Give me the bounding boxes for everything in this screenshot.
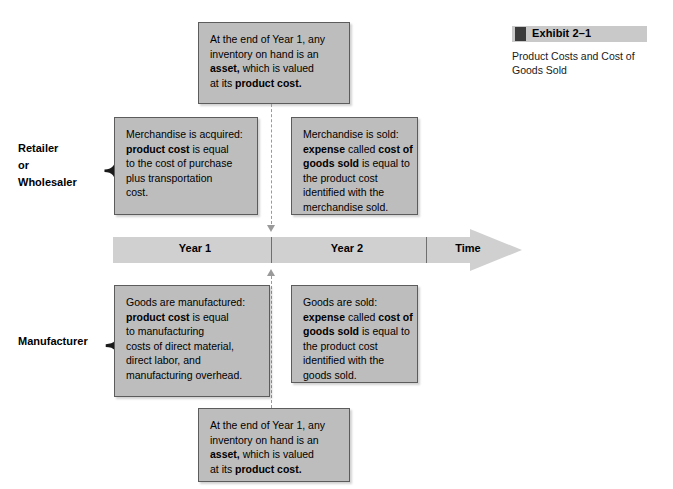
box-text-line: at its product cost. [210,76,339,91]
exhibit-title-bar: Exhibit 2–1 [512,26,647,42]
box-text-line: inventory on hand is an [210,47,339,62]
exhibit-caption-block: Exhibit 2–1 Product Costs and Cost of Go… [512,26,647,77]
box-text-line: identified with the [303,185,407,200]
timeline-divider [271,237,272,263]
box-text-line: identified with the [303,353,407,368]
text-run: At the end of Year 1, any [210,419,325,431]
emphasized-term: asset, [210,62,240,74]
box-text-line: asset, which is valued [210,447,339,462]
text-run: cost. [126,186,148,198]
emphasized-term: product cost [126,311,190,323]
text-run: goods sold. [303,369,357,381]
exhibit-caption-line: Goods Sold [512,63,647,77]
emphasized-term: goods sold [303,325,359,337]
filled-square-icon [515,27,526,41]
text-run: Goods are manufactured: [126,296,245,308]
text-run: At the end of Year 1, any [210,33,325,45]
text-run: the product cost [303,172,378,184]
emphasized-term: cost of [378,311,412,323]
exhibit-diagram-canvas: At the end of Year 1, anyinventory on ha… [0,0,673,489]
group-label-line: Manufacturer [18,333,88,350]
timeline-label-year-2: Year 2 [301,242,393,254]
exhibit-caption: Product Costs and Cost of Goods Sold [512,49,647,77]
text-run: to the cost of purchase [126,157,232,169]
box-text-line: the product cost [303,339,407,354]
box-text-line: plus transportation [126,171,247,186]
box-retailer-sold: Merchandise is sold:expense called cost … [291,117,418,215]
text-run: inventory on hand is an [210,434,319,446]
box-text-line: inventory on hand is an [210,433,339,448]
box-text-line: to manufacturing [126,324,259,339]
text-run: inventory on hand is an [210,48,319,60]
box-text-line: asset, which is valued [210,61,339,76]
box-text-line: at its product cost. [210,462,339,477]
dashed-connector-bottom [271,276,272,408]
group-label-manufacturer: Manufacturer [18,333,88,350]
emphasized-term: asset, [210,448,240,460]
box-text-line: goods sold. [303,368,407,383]
text-run: costs of direct material, [126,340,234,352]
box-manufacturer-sold: Goods are sold:expense called cost ofgoo… [291,285,418,383]
text-run: at its [210,463,235,475]
text-run: direct labor, and [126,354,201,366]
text-run: Merchandise is acquired: [126,128,243,140]
text-run: is equal to [359,157,410,169]
box-text-line: Merchandise is acquired: [126,127,247,142]
box-text-line: product cost is equal [126,310,259,325]
box-text-line: expense called cost of [303,142,407,157]
text-run: is equal [190,143,229,155]
box-text-line: At the end of Year 1, any [210,32,339,47]
emphasized-term: goods sold [303,157,359,169]
text-run: Goods are sold: [303,296,377,308]
arrowhead-up-icon [267,269,275,276]
emphasized-term: cost of [378,143,412,155]
emphasized-term: product cost. [235,77,302,89]
group-label-retailer: Retailer or Wholesaler [18,140,77,191]
box-bottom-inventory: At the end of Year 1, anyinventory on ha… [198,408,350,482]
emphasized-term: expense [303,143,345,155]
exhibit-caption-line: Product Costs and Cost of [512,49,647,63]
timeline-divider [426,237,427,263]
box-text-line: Goods are manufactured: [126,295,259,310]
text-run: called [345,143,378,155]
emphasized-term: product cost. [235,463,302,475]
dashed-connector-top [271,104,272,224]
box-text-line: Goods are sold: [303,295,407,310]
text-run: Merchandise is sold: [303,128,399,140]
text-run: the product cost [303,340,378,352]
box-text-line: manufacturing overhead. [126,368,259,383]
text-run: which is valued [240,62,314,74]
box-text-line: goods sold is equal to [303,324,407,339]
text-run: to manufacturing [126,325,204,337]
group-label-line: Retailer [18,140,77,157]
exhibit-title: Exhibit 2–1 [532,27,591,39]
box-text-line: At the end of Year 1, any [210,418,339,433]
timeline-label-time: Time [437,242,499,254]
group-label-line: Wholesaler [18,174,77,191]
box-text-line: to the cost of purchase [126,156,247,171]
text-run: manufacturing overhead. [126,369,242,381]
box-text-line: Merchandise is sold: [303,127,407,142]
text-run: called [345,311,378,323]
emphasized-term: product cost [126,143,190,155]
box-text-line: costs of direct material, [126,339,259,354]
box-text-line: cost. [126,185,247,200]
box-text-line: the product cost [303,171,407,186]
box-text-line: product cost is equal [126,142,247,157]
timeline-label-year-1: Year 1 [149,242,241,254]
box-text-line: expense called cost of [303,310,407,325]
box-text-line: merchandise sold. [303,200,407,215]
box-text-line: goods sold is equal to [303,156,407,171]
box-top-inventory: At the end of Year 1, anyinventory on ha… [198,22,350,104]
text-run: plus transportation [126,172,212,184]
emphasized-term: expense [303,311,345,323]
box-retailer-acquired: Merchandise is acquired:product cost is … [114,117,258,215]
box-manufacturer-made: Goods are manufactured:product cost is e… [114,285,270,397]
text-run: at its [210,77,235,89]
group-label-line: or [18,157,77,174]
box-text-line: direct labor, and [126,353,259,368]
text-run: identified with the [303,186,384,198]
timeline-arrow: Year 1 Year 2 Time [113,229,522,271]
text-run: identified with the [303,354,384,366]
text-run: merchandise sold. [303,201,388,213]
